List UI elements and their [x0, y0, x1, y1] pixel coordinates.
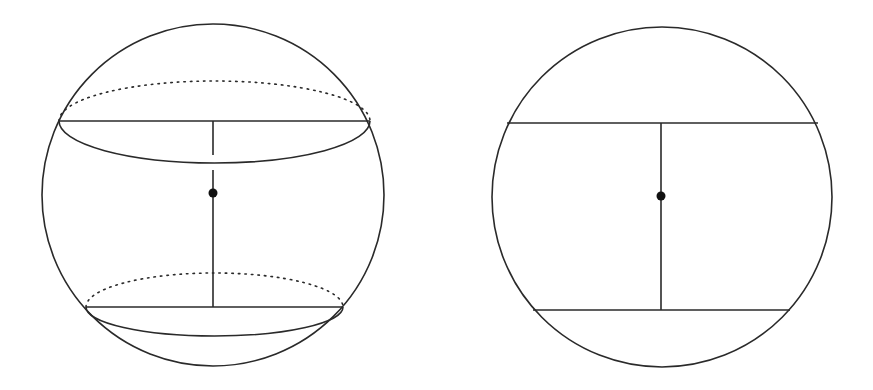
section-back-arc-dotted [86, 273, 343, 307]
figure-canvas [0, 0, 873, 390]
center-dot [657, 192, 666, 201]
center-dot [209, 189, 218, 198]
section-front-arc [86, 307, 343, 336]
sphere-cross-section-panel [492, 27, 832, 367]
sphere-3d-panel [42, 24, 384, 366]
section-front-arc [59, 121, 370, 163]
upper-cross-section [59, 81, 370, 163]
lower-cross-section [86, 273, 343, 336]
diagram-svg [0, 0, 873, 390]
section-back-arc-dotted [59, 81, 370, 121]
